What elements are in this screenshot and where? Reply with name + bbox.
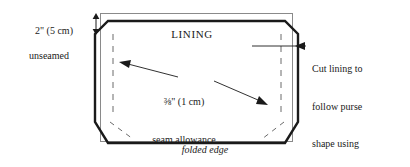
seam-allowance-measure: ⅜" (1 cm) bbox=[128, 96, 240, 109]
folded-edge-caption: folded edge bbox=[150, 144, 260, 157]
right-callout-arrow-icon bbox=[295, 42, 305, 50]
diagram-canvas: 2" (5 cm) unseamed LINING ⅜" (1 cm) seam… bbox=[0, 0, 410, 167]
cut-lining-callout: Cut lining to follow purse shape using p… bbox=[312, 38, 408, 167]
unseamed-callout: 2" (5 cm) unseamed bbox=[6, 12, 92, 87]
unseamed-callout-line1: 2" (5 cm) bbox=[35, 25, 73, 36]
cut-lining-callout-line2: follow purse bbox=[312, 101, 408, 114]
unseamed-callout-line2: unseamed bbox=[6, 50, 92, 63]
lining-label: LINING bbox=[150, 28, 234, 42]
left-arrow-icon bbox=[119, 60, 131, 68]
cut-lining-callout-line3: shape using bbox=[312, 138, 408, 151]
down-right-arrow-icon bbox=[256, 96, 268, 105]
cut-lining-callout-line1: Cut lining to bbox=[312, 63, 408, 76]
seam-line-bottom-right-chamfer bbox=[262, 122, 284, 139]
